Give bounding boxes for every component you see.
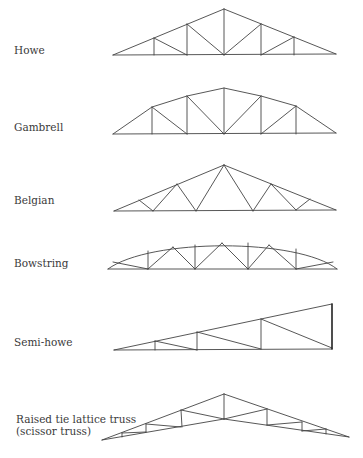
truss-member (224, 165, 336, 210)
truss-member (113, 262, 148, 269)
truss-member (296, 262, 333, 269)
truss-member (177, 184, 196, 211)
truss-member (195, 243, 222, 269)
truss-drawings (0, 0, 363, 458)
truss-member (224, 419, 349, 437)
truss-scissor-truss (102, 394, 349, 440)
truss-member (267, 422, 302, 425)
truss-member (197, 332, 261, 349)
truss-belgian (114, 165, 336, 211)
truss-member (153, 184, 177, 211)
truss-bowstring (108, 243, 337, 269)
truss-member (187, 24, 224, 55)
truss-member (102, 394, 224, 440)
truss-member (224, 24, 261, 55)
truss-member (302, 429, 326, 431)
truss-member (222, 243, 248, 269)
truss-member (113, 9, 224, 55)
truss-member (248, 245, 269, 269)
truss-member (253, 184, 271, 211)
truss-member (114, 165, 224, 211)
top-chord-arc (108, 246, 337, 269)
truss-member (261, 106, 296, 134)
truss-member (224, 96, 261, 134)
truss-member (181, 410, 182, 427)
truss-member (261, 37, 294, 55)
truss-member (261, 319, 332, 348)
truss-member (181, 410, 224, 419)
truss-member (224, 409, 267, 419)
truss-member (224, 165, 253, 211)
truss-member (155, 341, 197, 350)
truss-member (152, 107, 187, 134)
truss-semi-howe (114, 304, 332, 350)
truss-member (196, 165, 224, 211)
truss-member (102, 419, 224, 440)
truss-howe (113, 9, 336, 55)
truss-gambrell (113, 88, 336, 134)
truss-member (187, 96, 224, 134)
truss-member (224, 9, 336, 54)
truss-member (271, 184, 296, 210)
truss-member (269, 245, 296, 269)
truss-member (173, 247, 195, 269)
top-chord (113, 88, 336, 134)
truss-member (114, 349, 332, 350)
truss-member (154, 38, 187, 55)
truss-member (139, 200, 153, 211)
truss-member (224, 394, 349, 437)
truss-member (114, 304, 332, 350)
truss-member (146, 424, 181, 427)
truss-member (114, 210, 336, 211)
truss-member (296, 199, 310, 210)
